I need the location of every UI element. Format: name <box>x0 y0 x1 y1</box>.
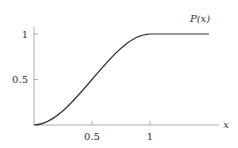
xtick-label-0.5: 0.5 <box>84 131 100 142</box>
chart: 1 0.5 0.5 1 x P(x) <box>0 0 238 148</box>
ytick-label-1: 1 <box>22 29 28 40</box>
xtick-label-1: 1 <box>147 131 153 142</box>
series-line-p-x <box>34 34 209 125</box>
series-label: P(x) <box>189 13 210 24</box>
x-axis-label: x <box>223 119 229 130</box>
ytick-label-0.5: 0.5 <box>12 74 28 85</box>
